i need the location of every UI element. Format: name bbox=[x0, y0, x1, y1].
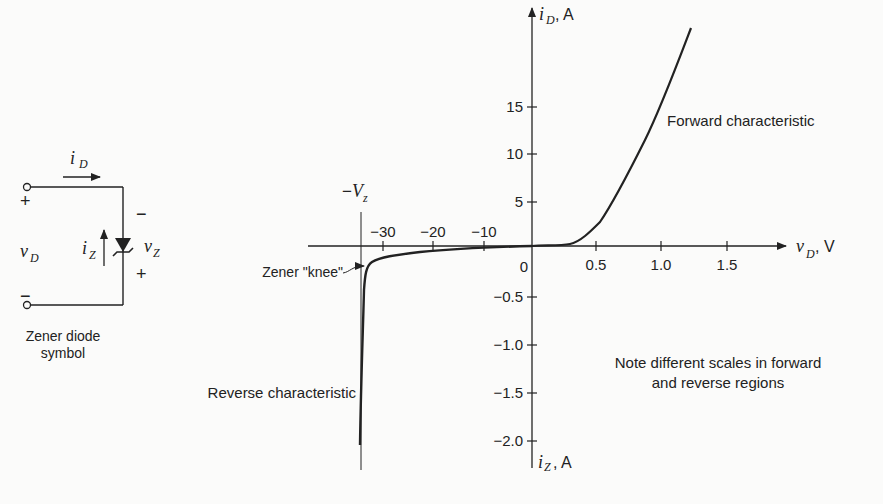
note-line1: Note different scales in forward bbox=[615, 354, 822, 371]
y-axis-label-i: i bbox=[539, 4, 544, 24]
y-neg-label-sub: Z bbox=[544, 460, 551, 474]
iv-chart: i_D, A i D , A i Z , A v D , V 5 10 15 −… bbox=[208, 4, 835, 474]
zener-circuit-diagram: i D + − v D i Z − v Z + Zener diode symb… bbox=[20, 148, 160, 361]
x-axis-label-sub: D bbox=[805, 247, 815, 261]
circuit-current-label: i bbox=[70, 148, 75, 168]
y-tick-neg-1-5: −1.5 bbox=[493, 384, 523, 401]
zener-chart-figure: i D + − v D i Z − v Z + Zener diode symb… bbox=[0, 0, 883, 504]
y-tick-10: 10 bbox=[506, 145, 523, 162]
knee-annotation: Zener "knee" bbox=[262, 264, 343, 280]
vz-plus: + bbox=[136, 264, 147, 284]
x-axis-label-unit: , V bbox=[815, 238, 835, 255]
vz-marker-minus: − bbox=[342, 182, 352, 201]
vz-marker-sub: z bbox=[362, 191, 368, 205]
voltage-label: v bbox=[20, 241, 28, 261]
circuit-current-sub: D bbox=[78, 157, 88, 171]
y-tick-5: 5 bbox=[515, 193, 523, 210]
minus-bottom: − bbox=[20, 286, 31, 306]
y-tick-neg-0-5: −0.5 bbox=[493, 288, 523, 305]
vz-sub: Z bbox=[153, 246, 160, 260]
caption-line1: Zener diode bbox=[26, 328, 101, 344]
y-tick-neg-1-0: −1.0 bbox=[493, 336, 523, 353]
y-tick-neg-2-0: −2.0 bbox=[493, 432, 523, 449]
x-tick-0-5: 0.5 bbox=[586, 256, 607, 273]
origin-label: 0 bbox=[520, 258, 528, 275]
x-tick-1-0: 1.0 bbox=[651, 256, 672, 273]
x-tick-neg-30: −30 bbox=[370, 223, 395, 240]
forward-curve bbox=[532, 28, 691, 246]
x-tick-1-5: 1.5 bbox=[717, 256, 738, 273]
y-neg-label-unit: , A bbox=[553, 454, 572, 471]
y-axis-label-unit: , A bbox=[555, 6, 574, 23]
note-line2: and reverse regions bbox=[652, 374, 785, 391]
voltage-sub: D bbox=[29, 251, 39, 265]
forward-annotation: Forward characteristic bbox=[667, 112, 815, 129]
x-tick-neg-10: −10 bbox=[471, 223, 496, 240]
x-axis-label-v: v bbox=[796, 236, 804, 256]
terminal-top-icon bbox=[24, 184, 31, 191]
iz-sub: Z bbox=[89, 248, 96, 262]
iz-label: i bbox=[82, 238, 87, 258]
y-axis-label-sub: D bbox=[545, 13, 555, 27]
caption-line2: symbol bbox=[41, 345, 85, 361]
vz-minus: − bbox=[136, 204, 147, 224]
y-neg-label-i: i bbox=[538, 452, 543, 472]
plus-top: + bbox=[20, 191, 31, 211]
reverse-annotation: Reverse characteristic bbox=[208, 384, 357, 401]
vz-label: v bbox=[144, 236, 152, 256]
y-tick-15: 15 bbox=[506, 98, 523, 115]
x-tick-neg-20: −20 bbox=[420, 223, 445, 240]
